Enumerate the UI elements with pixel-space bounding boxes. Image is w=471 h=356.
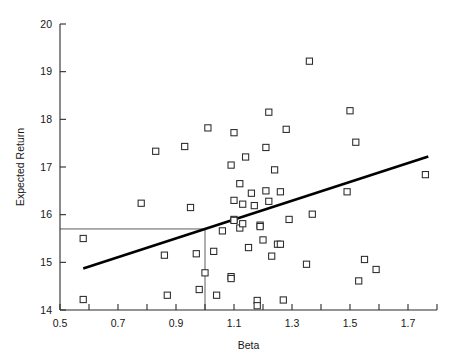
axes-layer [60, 24, 437, 310]
data-point [193, 251, 199, 257]
data-point [231, 130, 237, 136]
data-point [240, 221, 246, 227]
y-tick-label: 18 [40, 113, 52, 125]
data-point [202, 270, 208, 276]
data-point [257, 223, 263, 229]
trendline [83, 157, 428, 269]
data-point [164, 292, 170, 298]
y-tick-label: 17 [40, 161, 52, 173]
data-point [196, 286, 202, 292]
data-point [422, 172, 428, 178]
y-tick-label: 16 [40, 208, 52, 220]
y-tick-label: 14 [40, 304, 52, 316]
data-point [277, 241, 283, 247]
data-point [211, 248, 217, 254]
y-tick-label: 15 [40, 256, 52, 268]
x-tick-label: 1.3 [285, 317, 300, 329]
data-point [280, 297, 286, 303]
data-point [231, 217, 237, 223]
data-point [243, 154, 249, 160]
y-tick-label: 19 [40, 65, 52, 77]
data-point [237, 181, 243, 187]
data-point [286, 216, 292, 222]
data-point [138, 200, 144, 206]
data-point [182, 143, 188, 149]
trendline-layer [83, 157, 428, 269]
data-point [248, 190, 254, 196]
data-point [361, 256, 367, 262]
data-point [353, 139, 359, 145]
data-point [80, 296, 86, 302]
data-point [245, 244, 251, 250]
x-tick-label: 0.9 [169, 317, 184, 329]
y-tick-label: 20 [40, 18, 52, 30]
data-point [309, 211, 315, 217]
data-point [228, 162, 234, 168]
data-point [251, 203, 257, 209]
data-point [266, 109, 272, 115]
data-point [277, 189, 283, 195]
data-point [214, 292, 220, 298]
data-point [263, 144, 269, 150]
data-point [240, 201, 246, 207]
data-point [219, 228, 225, 234]
data-point [153, 148, 159, 154]
x-axis-title: Beta [238, 339, 260, 351]
y-axis-title: Expected Return [14, 128, 26, 206]
data-point [263, 188, 269, 194]
x-tick-label: 0.5 [53, 317, 68, 329]
data-point [228, 275, 234, 281]
data-point [306, 58, 312, 64]
data-point [347, 108, 353, 114]
data-points-layer [80, 58, 428, 309]
data-point [373, 266, 379, 272]
data-point [231, 197, 237, 203]
data-point [254, 303, 260, 309]
x-tick-label: 1.1 [227, 317, 242, 329]
axis-labels-layer: 141516171819200.50.70.91.11.31.51.7BetaE… [14, 18, 415, 351]
data-point [187, 204, 193, 210]
data-point [269, 253, 275, 259]
chart-container: 141516171819200.50.70.91.11.31.51.7BetaE… [0, 0, 471, 356]
scatter-plot: 141516171819200.50.70.91.11.31.51.7BetaE… [0, 0, 471, 356]
x-tick-label: 1.5 [343, 317, 358, 329]
data-point [272, 167, 278, 173]
data-point [344, 189, 350, 195]
data-point [161, 252, 167, 258]
x-tick-label: 0.7 [111, 317, 126, 329]
data-point [205, 125, 211, 131]
data-point [303, 261, 309, 267]
data-point [356, 278, 362, 284]
x-tick-label: 1.7 [401, 317, 416, 329]
data-point [260, 237, 266, 243]
data-point [266, 198, 272, 204]
data-point [283, 126, 289, 132]
data-point [80, 235, 86, 241]
